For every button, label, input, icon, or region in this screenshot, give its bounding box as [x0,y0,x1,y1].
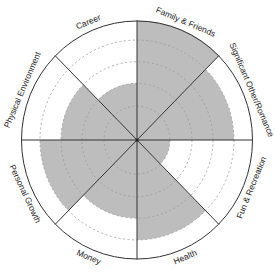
label-physical-environment: Physical Environment [2,50,43,130]
wheel-of-life-chart: Fun & RecreationHealthMoneyPersonal Grow… [0,0,275,275]
center-dot [136,139,139,142]
label-fun-recreation: Fun & Recreation [234,155,268,220]
label-health: Health [172,247,199,266]
label-career: Career [74,12,102,31]
label-money: Money [75,247,103,266]
